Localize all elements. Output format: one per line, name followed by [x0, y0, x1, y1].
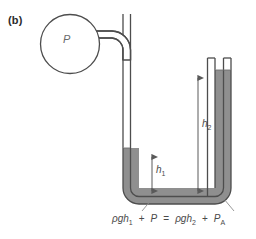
h1-label-subscript: 1	[162, 170, 166, 177]
bulb-pressure-label: P	[63, 33, 70, 45]
mercury-fill	[120, 70, 236, 208]
equation-left-plus: +	[133, 213, 151, 224]
equation-operator: =	[157, 213, 175, 224]
u-tube-outline	[123, 14, 231, 204]
equation-left-gh: gh	[118, 213, 129, 224]
h2-label: h2	[202, 118, 211, 131]
equation-right-side: ρgh2+PA	[175, 213, 225, 224]
h2-label-subscript: 2	[208, 124, 212, 131]
manometer-diagram	[0, 0, 256, 239]
equation-right-gh: gh	[181, 213, 192, 224]
bulb-connector-tube	[95, 31, 131, 60]
pressure-balance-equation: ρgh1+P=ρgh2+PA	[112, 213, 256, 226]
bulb-connector-join-mask	[93, 32, 96, 39]
panel-label: (b)	[8, 14, 23, 26]
equation-left-side: ρgh1+P	[112, 213, 157, 224]
h1-label: h1	[156, 164, 165, 177]
equation-right-plus: +	[196, 213, 214, 224]
equation-right-p-subscript: A	[220, 219, 225, 226]
